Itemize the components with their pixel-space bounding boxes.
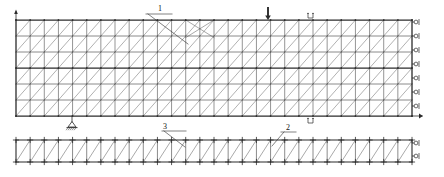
- grid-node: [397, 67, 398, 68]
- brace-diagonal: [355, 140, 369, 162]
- grid-node: [355, 115, 356, 116]
- grid-node: [86, 19, 87, 20]
- brace-diagonal: [101, 36, 115, 52]
- brace-diagonal: [214, 140, 228, 162]
- roller-support: [412, 140, 419, 146]
- brace-diagonal: [200, 140, 214, 162]
- grid-node: [256, 19, 257, 20]
- brace-diagonal: [143, 140, 157, 162]
- brace-diagonal: [157, 100, 171, 116]
- roller-support: [412, 103, 419, 109]
- brace-diagonal: [101, 100, 115, 116]
- brace-diagonal: [129, 84, 143, 100]
- grid-node: [326, 19, 327, 20]
- grid-node: [270, 19, 271, 20]
- brace-diagonal: [101, 140, 115, 162]
- brace-diagonal: [299, 100, 313, 116]
- brace-diagonal: [285, 140, 299, 162]
- brace-diagonal: [256, 36, 270, 52]
- roller-support: [412, 153, 419, 159]
- grid-node: [128, 67, 129, 68]
- grid-node: [128, 115, 129, 116]
- brace-diagonal: [115, 84, 129, 100]
- brace-diagonal: [186, 52, 200, 68]
- grid-node: [227, 115, 228, 116]
- brace-diagonal: [370, 36, 384, 52]
- grid-node: [284, 115, 285, 116]
- brace-diagonal: [285, 84, 299, 100]
- brace-diagonal: [101, 68, 115, 84]
- section-mark-top: [307, 13, 314, 18]
- brace-diagonal: [172, 84, 186, 100]
- brace-diagonal: [228, 20, 242, 36]
- brace-diagonal: [271, 36, 285, 52]
- brace-diagonal: [30, 20, 44, 36]
- brace-diagonal: [370, 52, 384, 68]
- brace-diagonal: [398, 84, 412, 100]
- grid-node: [86, 67, 87, 68]
- brace-diagonal: [313, 36, 327, 52]
- brace-diagonal: [242, 36, 256, 52]
- grid-node: [227, 19, 228, 20]
- grid-node: [128, 19, 129, 20]
- brace-diagonal: [313, 140, 327, 162]
- brace-diagonal: [214, 52, 228, 68]
- brace-diagonal: [157, 36, 171, 52]
- brace-diagonal: [115, 68, 129, 84]
- brace-diagonal: [341, 52, 355, 68]
- grid-node: [100, 67, 101, 68]
- grid-node: [256, 67, 257, 68]
- brace-diagonal: [228, 36, 242, 52]
- grid-node: [397, 115, 398, 116]
- brace-diagonal: [16, 100, 30, 116]
- brace-diagonal: [384, 84, 398, 100]
- brace-diagonal: [200, 68, 214, 84]
- brace-diagonal: [299, 36, 313, 52]
- brace-diagonal: [129, 140, 143, 162]
- brace-diagonal: [87, 52, 101, 68]
- brace-diagonal: [73, 68, 87, 84]
- brace-diagonal: [101, 52, 115, 68]
- grid-node: [411, 19, 412, 20]
- brace-diagonal: [44, 52, 58, 68]
- grid-node: [270, 67, 271, 68]
- brace-diagonal: [73, 140, 87, 162]
- grid-node: [355, 67, 356, 68]
- brace-diagonal: [101, 20, 115, 36]
- grid-node: [298, 115, 299, 116]
- brace-diagonal: [228, 68, 242, 84]
- brace-diagonal: [115, 52, 129, 68]
- grid-node: [341, 115, 342, 116]
- brace-diagonal: [214, 100, 228, 116]
- roller-support: [412, 33, 419, 39]
- brace-diagonal: [186, 100, 200, 116]
- roller-support: [412, 75, 419, 81]
- brace-diagonal: [16, 84, 30, 100]
- brace-diagonal: [87, 36, 101, 52]
- brace-diagonal: [58, 52, 72, 68]
- arrow-head-icon: [419, 114, 423, 119]
- brace-diagonal: [129, 36, 143, 52]
- grid-node: [143, 67, 144, 68]
- brace-diagonal: [370, 68, 384, 84]
- brace-diagonal: [30, 100, 44, 116]
- brace-diagonal: [398, 20, 412, 36]
- brace-diagonal: [44, 68, 58, 84]
- brace-diagonal: [327, 36, 341, 52]
- brace-diagonal: [299, 52, 313, 68]
- brace-diagonal: [44, 100, 58, 116]
- brace-diagonal: [44, 140, 58, 162]
- brace-diagonal: [101, 84, 115, 100]
- brace-diagonal: [242, 20, 256, 36]
- brace-diagonal: [157, 140, 171, 162]
- brace-diagonal: [271, 140, 285, 162]
- grid-node: [171, 19, 172, 20]
- brace-diagonal: [271, 52, 285, 68]
- brace-diagonal: [313, 84, 327, 100]
- grid-node: [383, 19, 384, 20]
- brace-diagonal: [143, 36, 157, 52]
- brace-diagonal: [341, 84, 355, 100]
- brace-diagonal: [256, 68, 270, 84]
- brace-diagonal: [355, 36, 369, 52]
- grid-node: [369, 19, 370, 20]
